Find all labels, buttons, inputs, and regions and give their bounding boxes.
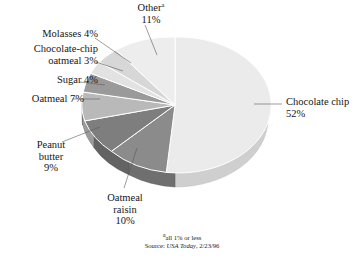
- slice-label-sugar-text: Sugar 4%: [57, 74, 98, 85]
- footnote-source-name: USA Today: [166, 242, 196, 249]
- slice-label-peanut-butter: Peanut butter 9%: [18, 139, 84, 174]
- chart-footnote: aall 1% or less Source: USA Today, 2/23/…: [0, 234, 364, 250]
- slice-label-chocolate-chip: Chocolate chip 52%: [286, 96, 364, 119]
- slice-label-chocolate-chip-oatmeal: Chocolate-chip oatmeal 3%: [2, 43, 98, 66]
- slice-label-other-value: 11%: [142, 14, 161, 25]
- footnote-note-text: all 1% or less: [166, 234, 202, 241]
- slice-label-chocolate-chip-oatmeal-line1: Chocolate-chip: [34, 43, 98, 54]
- footnote-note-line: aall 1% or less: [0, 234, 364, 242]
- slice-label-other: Othera 11%: [116, 2, 186, 25]
- slice-label-other-superscript: a: [162, 1, 165, 8]
- slice-label-peanut-butter-line3: 9%: [44, 162, 58, 173]
- slice-label-oatmeal-raisin-line1: Oatmeal: [107, 192, 143, 203]
- slice-label-oatmeal-raisin-line3: 10%: [115, 215, 134, 226]
- slice-label-oatmeal-raisin-line2: raisin: [113, 204, 136, 215]
- pie-chart-figure: Othera 11% Molasses 4% Chocolate-chip oa…: [0, 0, 364, 258]
- slice-label-chocolate-chip-line1: Chocolate chip: [286, 96, 349, 107]
- slice-label-sugar: Sugar 4%: [8, 74, 98, 86]
- slice-label-chocolate-chip-oatmeal-line2: oatmeal 3%: [48, 55, 98, 66]
- slice-label-oatmeal-text: Oatmeal 7%: [32, 93, 84, 104]
- slice-label-peanut-butter-line1: Peanut: [37, 139, 66, 150]
- slice-label-molasses: Molasses 4%: [8, 28, 98, 40]
- slice-label-oatmeal-raisin: Oatmeal raisin 10%: [88, 192, 162, 227]
- slice-label-other-name: Other: [138, 2, 162, 13]
- footnote-source-date: , 2/23/96: [196, 242, 219, 249]
- slice-label-oatmeal: Oatmeal 7%: [0, 93, 84, 105]
- slice-label-chocolate-chip-line2: 52%: [286, 108, 305, 119]
- slice-label-peanut-butter-line2: butter: [39, 151, 64, 162]
- footnote-source-line: Source: USA Today, 2/23/96: [0, 242, 364, 250]
- footnote-source-prefix: Source:: [145, 242, 167, 249]
- slice-label-molasses-text: Molasses 4%: [42, 28, 98, 39]
